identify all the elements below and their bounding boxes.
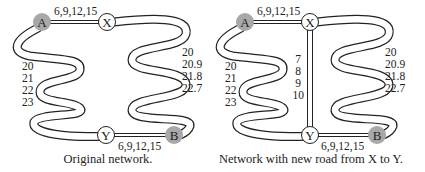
svg-text:22: 22: [22, 84, 34, 96]
panel-original: A X Y B 6,9,12,15 6,9,12,15 20 21 22 23 …: [17, 5, 202, 166]
node-y: Y: [302, 127, 319, 144]
svg-text:20: 20: [385, 46, 397, 58]
network-diagram: A X Y B 6,9,12,15 6,9,12,15 20 21 22 23 …: [0, 0, 425, 172]
svg-text:9: 9: [295, 77, 301, 89]
svg-text:Y: Y: [101, 128, 111, 143]
svg-text:B: B: [373, 128, 382, 143]
edge-label-x-b: 20 20.9 21.8 22.7: [182, 46, 202, 94]
svg-text:8: 8: [295, 65, 301, 77]
svg-text:21: 21: [225, 72, 237, 84]
edge-label-a-y: 20 21 22 23: [22, 60, 34, 108]
node-b: B: [368, 126, 386, 144]
svg-text:23: 23: [22, 96, 34, 108]
svg-text:21.8: 21.8: [182, 70, 202, 82]
svg-text:22.7: 22.7: [182, 82, 202, 94]
edge-label-a-x: 6,9,12,15: [257, 5, 300, 18]
node-x: X: [302, 14, 319, 31]
svg-text:B: B: [170, 128, 179, 143]
svg-text:X: X: [102, 15, 112, 30]
svg-text:X: X: [305, 15, 315, 30]
svg-text:20.9: 20.9: [385, 58, 405, 70]
svg-text:22: 22: [225, 84, 237, 96]
edge-label-x-y: 7 8 9 10: [293, 53, 305, 101]
svg-text:20: 20: [182, 46, 194, 58]
road-x-to-b: [317, 19, 393, 135]
svg-text:A: A: [37, 15, 47, 30]
node-x: X: [99, 14, 116, 31]
svg-text:23: 23: [225, 96, 237, 108]
svg-text:10: 10: [293, 89, 305, 101]
caption-original: Original network.: [64, 152, 153, 166]
svg-text:21.8: 21.8: [385, 70, 405, 82]
road-x-to-b: [114, 19, 190, 135]
road-a-to-x: [245, 21, 309, 24]
road-x-to-y-new: [308, 22, 313, 135]
svg-text:21: 21: [22, 72, 34, 84]
edge-label-a-y: 20 21 22 23: [225, 60, 237, 108]
svg-text:20: 20: [225, 60, 237, 72]
road-a-to-x: [42, 21, 106, 24]
caption-new-road: Network with new road from X to Y.: [219, 152, 403, 166]
node-y: Y: [98, 127, 115, 144]
svg-text:A: A: [240, 15, 250, 30]
road-y-to-b: [309, 134, 376, 137]
panel-new-road: A X Y B 6,9,12,15 6,9,12,15 20 21 22 23 …: [219, 5, 405, 166]
svg-text:Y: Y: [305, 128, 315, 143]
svg-text:20.9: 20.9: [182, 58, 202, 70]
road-y-to-b: [106, 134, 173, 137]
svg-text:7: 7: [295, 53, 301, 65]
svg-text:20: 20: [22, 60, 34, 72]
node-b: B: [165, 126, 183, 144]
edge-label-a-x: 6,9,12,15: [54, 5, 97, 18]
node-a: A: [33, 13, 51, 31]
node-a: A: [236, 13, 254, 31]
svg-text:22.7: 22.7: [385, 82, 405, 94]
edge-label-x-b: 20 20.9 21.8 22.7: [385, 46, 405, 94]
